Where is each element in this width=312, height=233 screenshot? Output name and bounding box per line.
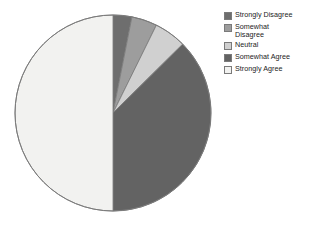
legend-item-somewhat-disagree[interactable]: Somewhat Disagree [224, 23, 310, 40]
pie-chart-svg [0, 0, 220, 233]
legend-item-label: Strongly Disagree [235, 11, 292, 19]
pie-chart-plot-area [0, 0, 220, 233]
legend-swatch-icon [224, 54, 232, 62]
chart-legend: Strongly Disagree Somewhat Disagree Neut… [224, 11, 310, 77]
legend-item-label: Neutral [235, 41, 258, 49]
pie-slice-strongly-agree[interactable] [15, 15, 113, 211]
legend-item-label: Strongly Agree [235, 65, 282, 73]
legend-item-strongly-disagree[interactable]: Strongly Disagree [224, 11, 310, 22]
legend-item-neutral[interactable]: Neutral [224, 41, 310, 52]
legend-item-strongly-agree[interactable]: Strongly Agree [224, 65, 310, 76]
pie-chart-figure: Strongly Disagree Somewhat Disagree Neut… [0, 0, 312, 233]
legend-item-label: Somewhat Agree [235, 53, 290, 61]
legend-swatch-icon [224, 12, 232, 20]
legend-swatch-icon [224, 24, 232, 32]
legend-item-somewhat-agree[interactable]: Somewhat Agree [224, 53, 310, 64]
legend-swatch-icon [224, 66, 232, 74]
pie-slice-group [15, 15, 211, 211]
legend-item-label: Somewhat Disagree [235, 23, 269, 40]
legend-swatch-icon [224, 42, 232, 50]
